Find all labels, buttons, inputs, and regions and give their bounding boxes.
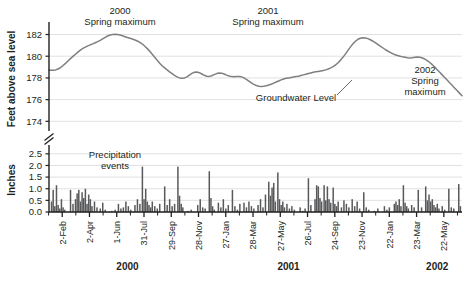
xtick-label: 26-Jul bbox=[303, 221, 313, 246]
precipitation-bar bbox=[171, 206, 173, 212]
precipitation-bar bbox=[275, 202, 277, 212]
precipitation-bar bbox=[319, 198, 321, 212]
ytick-label-bottom: 0.5 bbox=[29, 195, 42, 206]
precipitation-bar bbox=[418, 190, 420, 212]
annotation-line: 2000 bbox=[109, 5, 130, 16]
precipitation-bar bbox=[80, 202, 82, 212]
precipitation-bar bbox=[85, 189, 87, 212]
precipitation-bar bbox=[134, 205, 136, 212]
precipitation-bar bbox=[363, 192, 365, 212]
precipitation-bar bbox=[406, 206, 408, 212]
annotation-line: Spring bbox=[411, 75, 438, 86]
precipitation-bar bbox=[72, 204, 74, 212]
xtick-label: 28-Mar bbox=[248, 221, 258, 250]
ytick-label-top: 178 bbox=[26, 72, 42, 83]
precipitation-bar bbox=[346, 204, 348, 212]
precipitation-bar bbox=[314, 199, 316, 212]
precipitation-bar bbox=[154, 206, 156, 212]
annotation-line: maximum bbox=[404, 86, 445, 97]
precipitation-bar bbox=[210, 198, 212, 212]
precipitation-bar bbox=[277, 172, 279, 212]
precipitation-bar bbox=[432, 199, 434, 212]
precipitation-bar bbox=[270, 196, 272, 212]
xtick-label: 22-May bbox=[439, 221, 449, 252]
xtick-label: 29-Sep bbox=[167, 221, 177, 250]
precipitation-bar bbox=[159, 204, 161, 212]
precipitation-bar bbox=[102, 203, 104, 212]
precipitation-bar bbox=[448, 189, 450, 212]
precipitation-bar bbox=[197, 205, 199, 212]
precipitation-bar bbox=[137, 199, 139, 212]
ytick-label-bottom: 0.0 bbox=[29, 206, 42, 217]
precipitation-bar bbox=[427, 200, 429, 212]
precipitation-bar bbox=[180, 204, 182, 212]
chart-figure: 174176178180182 0.00.51.01.52.02.5 2-Feb… bbox=[0, 0, 471, 286]
xtick-label: 27-Jan bbox=[221, 221, 231, 249]
precipitation-bar bbox=[164, 186, 166, 212]
precipitation-bar bbox=[139, 204, 141, 212]
precipitation-bar bbox=[282, 202, 284, 212]
precipitation-bar bbox=[318, 186, 320, 212]
precipitation-bar bbox=[83, 198, 85, 212]
precipitation-bar bbox=[169, 199, 171, 212]
precipitation-bar bbox=[356, 202, 358, 212]
precipitation-bar bbox=[441, 206, 443, 212]
precipitation-bar bbox=[265, 195, 267, 212]
bottom-y-axis-label: Inches bbox=[6, 164, 17, 196]
precipitation-bar bbox=[328, 199, 330, 212]
precipitation-bar bbox=[88, 195, 90, 212]
precipitation-bar bbox=[177, 167, 179, 212]
precipitation-bar bbox=[291, 206, 293, 212]
precipitation-bar bbox=[52, 190, 54, 212]
groundwater-level-callout: Groundwater Level bbox=[256, 92, 336, 103]
precipitation-bar bbox=[239, 204, 241, 212]
xtick-label: 24-Sep bbox=[330, 221, 340, 250]
precipitation-bar bbox=[399, 199, 401, 212]
precipitation-bar bbox=[232, 190, 234, 212]
precipitation-bar bbox=[128, 206, 130, 212]
precipitation-bar bbox=[248, 202, 250, 212]
precipitation-bar bbox=[76, 193, 78, 212]
precipitation-bar bbox=[271, 188, 273, 212]
xtick-label: 23-Mar bbox=[412, 221, 422, 250]
precipitation-bar bbox=[334, 204, 336, 212]
ytick-label-bottom: 1.5 bbox=[29, 171, 42, 182]
precipitation-bar bbox=[51, 202, 53, 212]
precipitation-bar bbox=[70, 190, 72, 212]
precipitation-bar bbox=[148, 205, 150, 212]
precipitation-bar bbox=[212, 206, 214, 212]
xtick-label: 23-Nov bbox=[357, 221, 367, 251]
precipitation-bar bbox=[397, 205, 399, 212]
precipitation-bar bbox=[325, 200, 327, 212]
axis-break-marker bbox=[45, 131, 55, 145]
precipitation-bar bbox=[404, 203, 406, 212]
precipitation-bar bbox=[243, 203, 245, 212]
precipitation-bar bbox=[81, 192, 83, 212]
precipitation-bar bbox=[125, 202, 127, 212]
precipitation-bar bbox=[430, 202, 432, 212]
xtick-label: 22-Jan bbox=[385, 221, 395, 249]
precipitation-bar bbox=[94, 202, 96, 212]
precipitation-bar bbox=[179, 196, 181, 212]
precipitation-bar bbox=[273, 183, 275, 212]
precipitation-bar bbox=[118, 204, 120, 212]
precipitation-bar bbox=[234, 206, 236, 212]
precipitation-bar bbox=[308, 178, 310, 212]
precipitation-bar bbox=[61, 199, 63, 212]
precipitation-bar bbox=[142, 167, 144, 212]
precipitation-bar bbox=[384, 206, 386, 212]
ytick-label-bottom: 2.0 bbox=[29, 160, 42, 171]
precipitation-bar bbox=[78, 190, 80, 212]
precipitation-bar bbox=[411, 205, 413, 212]
precipitation-bar bbox=[403, 185, 405, 212]
annotation-line: Spring maximum bbox=[232, 16, 303, 27]
precipitation-bar bbox=[343, 200, 345, 212]
precipitation-bar bbox=[228, 205, 230, 212]
year-label-2000: 2000 bbox=[116, 261, 139, 272]
top-y-axis-label: Feet above sea level bbox=[6, 30, 17, 127]
ytick-label-bottom: 2.5 bbox=[29, 148, 42, 159]
precipitation-bar bbox=[54, 206, 56, 212]
ytick-label-top: 180 bbox=[26, 51, 42, 62]
precipitation-bar bbox=[147, 202, 149, 212]
groundwater-precipitation-chart: 174176178180182 0.00.51.01.52.02.5 2-Feb… bbox=[0, 0, 471, 286]
